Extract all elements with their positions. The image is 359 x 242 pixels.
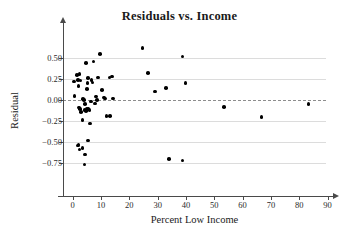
y-tick-label: −0.50 [22,137,62,147]
scatter-point [307,102,311,106]
y-tick-label: 0.50 [22,53,62,63]
scatter-point [260,115,264,119]
scatter-point [110,75,114,79]
scatter-point [92,60,96,64]
gridline [63,58,326,59]
scatter-point [81,146,85,150]
x-axis-line [58,196,336,197]
gridline [63,142,326,143]
scatter-point [91,81,95,85]
scatter-point [88,108,92,112]
scatter-point [95,98,99,102]
scatter-point [181,159,185,163]
scatter-point [73,94,77,98]
scatter-point [85,87,89,91]
x-tick-label: 0 [61,200,85,210]
scatter-point [96,76,100,80]
scatter-point [108,114,112,118]
x-tick-label: 90 [316,200,340,210]
scatter-point [83,163,87,167]
scatter-point [111,97,115,101]
x-tick-label: 50 [202,200,226,210]
scatter-point [93,102,97,106]
x-axis-title: Percent Low Income [63,214,326,225]
scatter-point [167,157,171,161]
scatter-point [84,61,88,65]
x-tick-label: 70 [259,200,283,210]
x-tick-label: 30 [146,200,170,210]
gridline [63,79,326,80]
scatter-point [222,105,226,109]
scatter-point [79,79,83,83]
scatter-point [100,88,104,92]
scatter-point [181,55,185,59]
scatter-point [77,84,81,88]
x-tick-label: 60 [231,200,255,210]
scatter-point [88,122,92,126]
x-tick-label: 20 [117,200,141,210]
zero-reference-line [63,100,326,101]
y-tick-label: 0.25 [22,74,62,84]
plot-area: 0.500.250.00−0.25−0.50−0.75 010203040506… [0,0,359,242]
y-tick-label: 0.00 [22,95,62,105]
scatter-point [78,72,82,76]
scatter-point [76,144,80,148]
scatter-point [86,139,90,143]
x-tick-label: 10 [89,200,113,210]
scatter-point [82,98,86,102]
scatter-point [72,80,76,84]
scatter-point [141,46,145,50]
residual-plot-figure: Residuals vs. Income 0.500.250.00−0.25−0… [0,0,359,242]
scatter-point [81,118,85,122]
y-tick-label: −0.75 [22,158,62,168]
gridline [63,121,326,122]
y-tick-label: −0.25 [22,116,62,126]
scatter-point [146,71,150,75]
y-axis-line [63,22,64,196]
scatter-point [153,90,157,94]
x-tick-label: 80 [287,200,311,210]
scatter-point [103,97,107,101]
scatter-point [164,86,168,90]
x-tick-label: 40 [174,200,198,210]
scatter-point [86,81,90,85]
y-axis-title: Residual [9,71,20,151]
scatter-point [184,81,188,85]
gridline [63,163,326,164]
scatter-point [83,102,87,106]
scatter-point [98,52,102,56]
scatter-point [83,153,87,157]
